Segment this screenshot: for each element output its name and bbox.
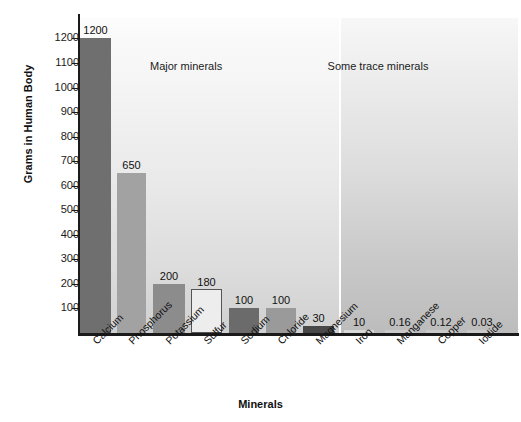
bar-value-label: 180 (197, 276, 215, 288)
y-tick-label: 300 (43, 253, 79, 264)
bar-value-label: 200 (160, 270, 178, 282)
bar-calcium: 1200 (80, 38, 111, 333)
bar-value-label: 30 (312, 312, 324, 324)
bar-value-label: 650 (122, 159, 140, 171)
major-minerals-label: Major minerals (150, 60, 222, 72)
y-tick-label: 800 (43, 131, 79, 142)
y-tick-label: 900 (43, 106, 79, 117)
y-tick-label: 600 (43, 180, 79, 191)
bar-value-label: 100 (235, 294, 253, 306)
y-axis-title: Grams in Human Body (22, 44, 34, 204)
bar-value-label: 1200 (83, 24, 107, 36)
bar-chart: 120011001000900800700600500400300200100 … (0, 0, 521, 422)
y-tick-label: 1200 (43, 32, 79, 43)
trace-minerals-label: Some trace minerals (328, 60, 429, 72)
y-tick-label: 200 (43, 278, 79, 289)
y-tick-label: 400 (43, 229, 79, 240)
y-tick-label: 500 (43, 204, 79, 215)
y-tick-label: 1100 (43, 57, 79, 68)
y-tick-label: 100 (43, 302, 79, 313)
y-tick-label: 1000 (43, 82, 79, 93)
y-tick-label: 700 (43, 155, 79, 166)
x-axis-title: Minerals (0, 398, 521, 410)
bar-value-label: 100 (272, 294, 290, 306)
bar-phosphorus: 650 (117, 173, 146, 333)
